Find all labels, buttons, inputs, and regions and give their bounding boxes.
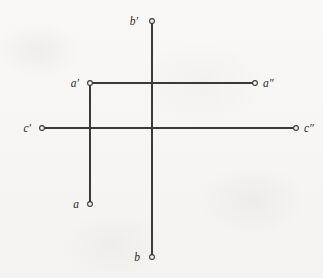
point-marker-b-prime — [150, 19, 155, 24]
point-label-b: b — [134, 251, 140, 263]
point-label-a-prime: a′ — [71, 77, 80, 89]
point-marker-a — [88, 202, 93, 207]
marker-group — [40, 19, 299, 260]
point-marker-c-prime — [40, 126, 45, 131]
point-label-b-prime: b′ — [130, 15, 139, 27]
point-label-a: a — [73, 198, 79, 210]
diagram-canvas: b′a′a″c′c″ab — [0, 0, 323, 278]
point-label-c-double-prime: c″ — [304, 122, 314, 134]
point-label-a-double-prime: a″ — [263, 77, 274, 89]
line-group — [42, 21, 296, 257]
point-marker-c-double-prime — [294, 126, 299, 131]
label-group: b′a′a″c′c″ab — [23, 15, 314, 263]
point-marker-b — [150, 255, 155, 260]
point-label-c-prime: c′ — [23, 122, 31, 134]
point-marker-a-double-prime — [253, 81, 258, 86]
projection-diagram: b′a′a″c′c″ab — [0, 0, 323, 278]
point-marker-a-prime — [88, 81, 93, 86]
